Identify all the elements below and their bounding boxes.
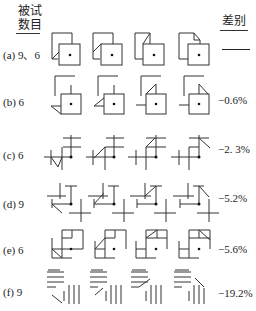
row-d-figures	[47, 183, 219, 222]
stimulus-figures	[0, 0, 256, 311]
figure-b1	[51, 76, 81, 114]
figure-c4	[171, 135, 210, 170]
row-e-figures	[48, 230, 210, 270]
figure-f3	[131, 272, 161, 304]
figure-b2	[94, 76, 124, 114]
row-f-figures	[47, 272, 204, 304]
figure-a3	[135, 33, 164, 65]
figure-f2	[90, 272, 121, 304]
figure-a4	[179, 33, 209, 65]
figure-c2	[86, 135, 124, 170]
figure-c3	[128, 135, 166, 170]
figure-d3	[130, 183, 176, 222]
figure-f1	[47, 272, 79, 304]
figure-f4	[174, 272, 204, 304]
figure-b3	[136, 76, 166, 114]
figure-b4	[179, 76, 209, 114]
figure-c1	[44, 135, 81, 170]
figure-d4	[173, 183, 219, 222]
row-c-figures	[44, 135, 210, 170]
figure-a2	[93, 33, 122, 65]
figure-d1	[47, 183, 91, 222]
figure-e2	[91, 230, 126, 270]
row-a-figures	[52, 33, 209, 65]
figure-e4	[175, 230, 210, 270]
figure-e3	[132, 230, 167, 270]
figure-a1	[52, 33, 80, 65]
row-b-figures	[51, 76, 209, 114]
figure-e1	[48, 230, 83, 270]
figure-d2	[88, 183, 134, 222]
